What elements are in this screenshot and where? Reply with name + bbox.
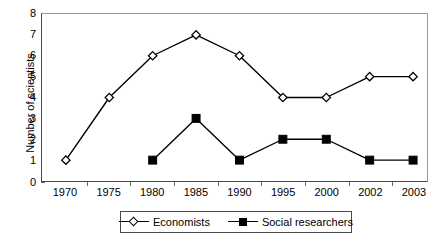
x-axis-tick-label: 2003 bbox=[391, 186, 437, 198]
series-social-researchers bbox=[149, 114, 417, 164]
x-axis-tick-label: 1995 bbox=[260, 186, 306, 198]
data-point-marker bbox=[322, 135, 330, 143]
legend-label: Economists bbox=[153, 216, 210, 228]
y-axis-tick-label: 4 bbox=[6, 92, 36, 103]
data-point-marker bbox=[192, 114, 200, 122]
y-axis-tick-label: 7 bbox=[6, 29, 36, 40]
data-point-marker bbox=[409, 72, 417, 80]
data-point-marker bbox=[62, 156, 70, 164]
line-chart-figure: Number of scientists 012345678 197019751… bbox=[0, 0, 445, 244]
data-point-marker bbox=[322, 93, 330, 101]
y-axis-tick-label: 2 bbox=[6, 134, 36, 145]
y-axis-tick-mark bbox=[41, 182, 45, 183]
x-axis-tick-label: 2002 bbox=[347, 186, 393, 198]
y-axis-tick-label: 6 bbox=[6, 50, 36, 61]
x-axis-tick-label: 1985 bbox=[173, 186, 219, 198]
x-axis-tick-label: 1980 bbox=[129, 186, 175, 198]
series-economists bbox=[62, 31, 418, 165]
series-plot bbox=[42, 14, 427, 181]
chart-legend: Economists Social researchers bbox=[120, 211, 352, 233]
y-axis-tick-label: 3 bbox=[6, 113, 36, 124]
plot-area bbox=[41, 13, 428, 182]
x-axis-tick-labels: 197019751980198519901995200020022003 bbox=[41, 186, 428, 202]
y-axis-tick-label: 0 bbox=[6, 177, 36, 188]
data-point-marker bbox=[365, 72, 373, 80]
x-axis-tick-label: 2000 bbox=[304, 186, 350, 198]
legend-label: Social researchers bbox=[262, 216, 353, 228]
data-point-marker bbox=[409, 156, 417, 164]
legend-marker-filled-square-icon bbox=[228, 216, 258, 228]
data-point-marker bbox=[279, 135, 287, 143]
x-axis-tick-label: 1990 bbox=[217, 186, 263, 198]
data-point-marker bbox=[235, 156, 243, 164]
y-axis-tick-label: 5 bbox=[6, 71, 36, 82]
legend-marker-open-diamond-icon bbox=[119, 216, 149, 228]
data-point-marker bbox=[192, 31, 200, 39]
y-axis-tick-label: 1 bbox=[6, 155, 36, 166]
y-axis-tick-label: 8 bbox=[6, 8, 36, 19]
x-axis-tick-label: 1975 bbox=[86, 186, 132, 198]
data-point-marker bbox=[366, 156, 374, 164]
legend-entry-economists[interactable]: Economists bbox=[119, 216, 210, 228]
data-point-marker bbox=[149, 156, 157, 164]
y-axis-tick-labels: 012345678 bbox=[3, 13, 36, 182]
x-axis-tick-label: 1970 bbox=[42, 186, 88, 198]
legend-entry-social-researchers[interactable]: Social researchers bbox=[228, 216, 353, 228]
